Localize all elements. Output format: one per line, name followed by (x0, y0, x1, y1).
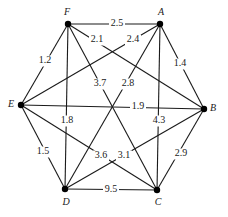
edge-weight-label: 2.4 (127, 33, 140, 44)
edge-weight-label: 1.4 (174, 57, 187, 68)
weighted-graph: 2.52.12.41.41.23.72.81.91.84.33.63.11.52… (0, 0, 228, 217)
edge-weight-label: 3.6 (95, 149, 108, 160)
edge-weight-label: 1.5 (37, 145, 50, 156)
node-e (18, 102, 24, 108)
edges-layer (21, 24, 204, 190)
edge-weight-label: 2.8 (122, 77, 135, 88)
node-label-c: C (155, 196, 162, 207)
edge-weight-label: 1.2 (39, 54, 52, 65)
node-d (62, 186, 68, 192)
edge-weight-label: 9.5 (105, 183, 118, 194)
edge-weight-label: 4.3 (153, 114, 166, 125)
node-label-b: B (210, 102, 216, 113)
edge-a-c (157, 24, 160, 190)
edge-weight-label: 2.9 (175, 147, 188, 158)
node-label-f: F (63, 6, 71, 17)
node-b (201, 106, 207, 112)
edge-weight-label: 2.1 (91, 33, 104, 44)
edge-weight-label: 1.9 (132, 100, 145, 111)
node-label-e: E (7, 98, 14, 109)
edge-weight-label: 1.8 (61, 114, 74, 125)
edge-weight-label: 3.7 (94, 77, 107, 88)
node-a (157, 21, 163, 27)
node-label-d: D (61, 196, 70, 207)
edge-weight-label: 2.5 (111, 17, 124, 28)
edge-weight-label: 3.1 (118, 149, 131, 160)
node-label-a: A (157, 6, 165, 17)
node-f (65, 21, 71, 27)
node-c (154, 187, 160, 193)
